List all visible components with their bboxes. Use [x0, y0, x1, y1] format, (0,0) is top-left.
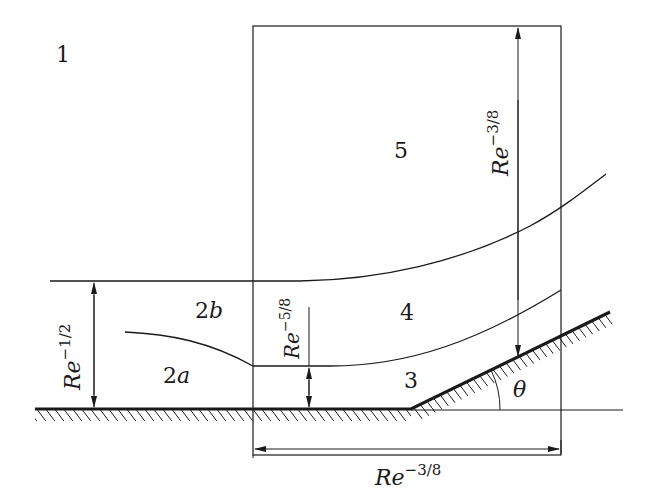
region-1-label: 1: [56, 42, 70, 67]
angle-theta-label: θ: [513, 377, 526, 402]
triple-deck-diagram: 1 5 4 3 2b 2a θ Re−1/2 Re−5/8 Re−3/8 Re−…: [0, 0, 653, 504]
region-2a-label: 2a: [163, 363, 190, 388]
region-3-label: 3: [404, 368, 418, 393]
region-2b-label: 2b: [195, 298, 223, 323]
region-4-label: 4: [400, 300, 414, 325]
vertical-interaction-label: Re−3/8: [484, 110, 513, 177]
region-5-label: 5: [394, 138, 408, 163]
sublayer-thickness-label: Re−5/8: [277, 298, 304, 360]
boundary-layer-thickness-label: Re−1/2: [56, 324, 85, 391]
inner-layer-curve-2a-2b: [125, 332, 253, 366]
boundary-layer-edge: [50, 174, 606, 281]
horizontal-interaction-label: Re−3/8: [374, 461, 441, 490]
